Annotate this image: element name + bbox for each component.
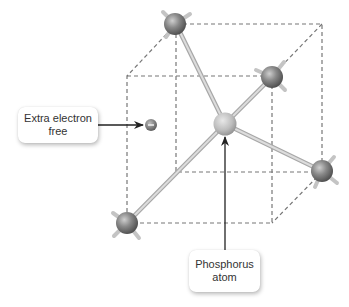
phosphorus-atom — [214, 113, 237, 136]
phosphorus-label-line1: Phosphorus — [195, 258, 254, 271]
phosphorus-label-line2: atom — [212, 271, 236, 284]
diagram-canvas: Extra electron free Phosphorus atom — [0, 0, 349, 307]
phosphorus-atom-label: Phosphorus atom — [189, 250, 260, 292]
free-electron — [145, 119, 157, 131]
extra-electron-label-line2: free — [49, 125, 68, 138]
silicon-atom-back-top-left — [163, 12, 190, 37]
cube-edge — [272, 172, 322, 223]
crystal-lattice-diagram — [0, 0, 349, 307]
extra-electron-label-line1: Extra electron — [24, 112, 92, 125]
silicon-atom-front-bottom-left — [113, 212, 139, 238]
silicon-atom-back-bottom-right — [311, 157, 337, 187]
extra-electron-label: Extra electron free — [18, 107, 98, 143]
